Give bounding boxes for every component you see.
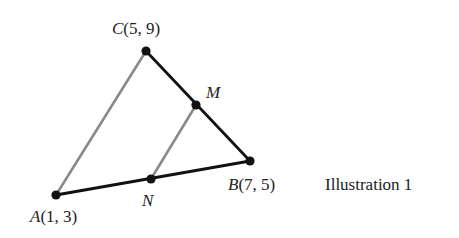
illustration-caption: Illustration 1 [325,175,412,194]
points-group [51,46,254,199]
point-n [146,174,155,183]
segments-group [56,51,250,195]
label-point-c: C(5, 9) [112,19,160,38]
point-b [245,156,254,165]
point-c [141,46,150,55]
segment-nm [151,105,196,179]
point-a [51,190,60,199]
triangle-diagram: A(1, 3)B(7, 5)C(5, 9)MN Illustration 1 [0,0,459,238]
label-point-n: N [141,191,155,210]
label-point-m: M [205,83,221,102]
segment-ac [56,51,146,195]
label-point-a: A(1, 3) [29,207,77,226]
point-m [191,100,200,109]
label-point-b: B(7, 5) [228,175,275,194]
diagram-canvas: A(1, 3)B(7, 5)C(5, 9)MN Illustration 1 [0,0,459,238]
labels-group: A(1, 3)B(7, 5)C(5, 9)MN [29,19,275,226]
